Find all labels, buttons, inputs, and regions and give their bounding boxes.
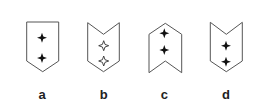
option-b-badge <box>88 23 120 72</box>
option-d-label: d <box>222 88 230 101</box>
option-d-badge <box>210 22 242 71</box>
option-a-badge <box>27 22 59 72</box>
shield-outline <box>27 22 59 72</box>
option-c-label: c <box>161 88 168 101</box>
option-b-label: b <box>100 88 108 101</box>
option-c-badge <box>149 23 182 72</box>
option-a-label: a <box>38 88 45 101</box>
